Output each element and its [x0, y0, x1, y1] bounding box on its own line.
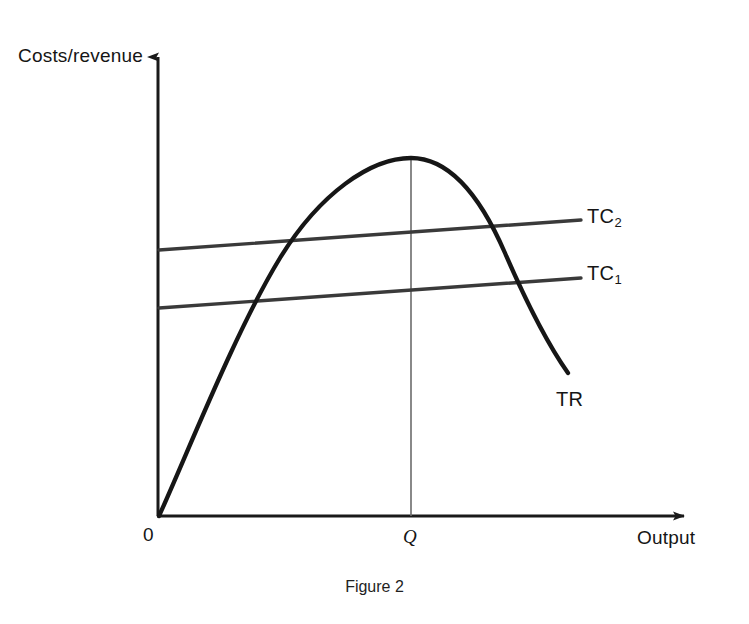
tc2-series-label: TC2 — [587, 205, 622, 228]
tr-series-label: TR — [556, 388, 583, 411]
figure-caption: Figure 2 — [0, 578, 749, 596]
y-axis-label: Costs/revenue — [18, 45, 143, 67]
tc2-label-text: TC — [587, 205, 614, 227]
tr-curve — [159, 158, 568, 516]
tc1-series-label: TC1 — [587, 262, 622, 285]
origin-label: 0 — [143, 524, 154, 546]
tc2-label-subscript: 2 — [615, 215, 622, 230]
tc1-label-subscript: 1 — [615, 272, 622, 287]
tc2-line — [159, 220, 581, 250]
q-tick-label: Q — [403, 526, 417, 548]
figure-container: Costs/revenue Output 0 Q TC2 TC1 TR Figu… — [0, 0, 749, 624]
x-axis-label: Output — [637, 527, 695, 549]
tc1-label-text: TC — [587, 262, 614, 284]
